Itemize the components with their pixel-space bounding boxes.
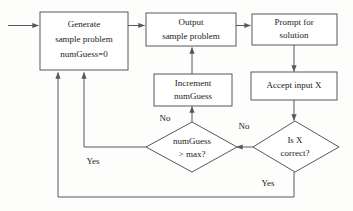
node-accept-line-1: Accept input X xyxy=(267,80,322,90)
node-correct-check-shape[interactable] xyxy=(253,121,339,172)
node-increment[interactable]: Increment numGuess xyxy=(154,74,232,106)
node-prompt-line-1: Prompt for xyxy=(274,17,313,27)
node-generate-line-2: sample problem xyxy=(55,34,113,44)
node-increment-line-2: numGuess xyxy=(174,91,212,101)
node-generate-line-3: numGuess=0 xyxy=(60,49,108,59)
node-max-check-line-1: numGuess xyxy=(173,136,211,146)
node-generate-line-1: Generate xyxy=(68,19,100,29)
edge-max-yes-to-generate xyxy=(84,73,146,148)
node-output-line-1: Output xyxy=(178,17,204,27)
node-output[interactable]: Output sample problem xyxy=(146,13,236,46)
node-generate[interactable]: Generate sample problem numGuess=0 xyxy=(40,12,128,70)
edge-label-no-max: No xyxy=(160,113,171,123)
edge-label-yes-max: Yes xyxy=(86,156,100,166)
node-prompt-line-2: solution xyxy=(279,30,309,40)
node-increment-line-1: Increment xyxy=(175,78,212,88)
flowchart-svg: Generate sample problem numGuess=0 Outpu… xyxy=(0,0,353,211)
edge-label-no-correct: No xyxy=(239,121,250,131)
flowchart-diagram: Generate sample problem numGuess=0 Outpu… xyxy=(0,0,353,211)
node-correct-check-line-1: Is X xyxy=(287,135,303,145)
edge-label-yes-correct: Yes xyxy=(261,178,275,188)
node-accept[interactable]: Accept input X xyxy=(251,72,337,100)
node-max-check-line-2: > max? xyxy=(179,149,206,159)
node-max-check-shape[interactable] xyxy=(146,122,237,172)
node-correct-check[interactable]: Is X correct? xyxy=(253,121,339,172)
node-prompt[interactable]: Prompt for solution xyxy=(252,14,337,45)
node-correct-check-line-2: correct? xyxy=(281,148,310,158)
node-max-check[interactable]: numGuess > max? xyxy=(146,122,237,172)
node-output-line-2: sample problem xyxy=(162,31,220,41)
